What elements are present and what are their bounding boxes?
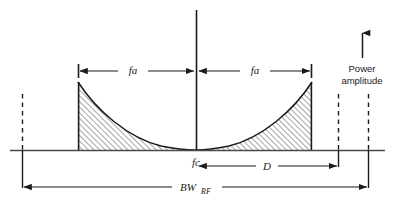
power-amplitude-label-line2: amplitude (341, 75, 382, 86)
dimension-fa-left: fa (79, 62, 195, 78)
bw-subscript-label: RF (200, 187, 211, 196)
diagram-canvas: fa fa fc D BW RF Power amplitude (0, 0, 412, 209)
d-label: D (262, 160, 271, 172)
dimension-bw-rf: BW RF (24, 179, 367, 196)
left-lobe-fill (78, 82, 196, 150)
dashed-reference-lines (23, 94, 369, 150)
dimension-fa-right: fa (199, 62, 312, 78)
dimension-d: D (199, 158, 337, 173)
right-lobe-fill (196, 82, 312, 150)
fa-left-label: fa (129, 64, 138, 76)
power-amplitude-label-line1: Power (349, 63, 376, 74)
fm-spectrum-figure: fa fa fc D BW RF Power amplitude (0, 0, 412, 209)
fa-right-label: fa (251, 64, 260, 76)
bw-label: BW (180, 181, 197, 193)
fc-label: fc (192, 156, 200, 168)
power-amplitude-annotation: Power amplitude (341, 33, 382, 86)
spectrum-shaded-region (78, 82, 312, 150)
